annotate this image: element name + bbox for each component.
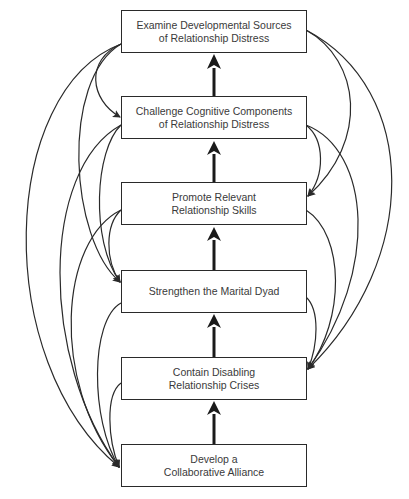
arrow-n5-n6 xyxy=(110,383,121,467)
arrow-n1-n5 xyxy=(306,30,392,369)
node-text: Develop a xyxy=(190,453,237,466)
node-examine-developmental-sources: Examine Developmental Sources of Relatio… xyxy=(121,10,307,53)
node-text: Contain Disabling xyxy=(173,366,255,379)
node-text: Challenge Cognitive Components xyxy=(136,105,292,118)
node-text: Collaborative Alliance xyxy=(164,466,264,479)
node-develop-collaborative-alliance: Develop a Collaborative Alliance xyxy=(121,444,307,487)
arrow-n3-n4 xyxy=(109,210,121,282)
left-arrows xyxy=(26,44,121,467)
right-arrows xyxy=(306,30,392,369)
node-contain-relationship-crises: Contain Disabling Relationship Crises xyxy=(121,357,307,400)
node-promote-relationship-skills: Promote Relevant Relationship Skills xyxy=(121,182,307,225)
node-text: Relationship Skills xyxy=(171,204,256,217)
diagram-edges xyxy=(0,0,409,499)
arrow-n3-n5 xyxy=(306,210,336,369)
node-text: of Relationship Distress xyxy=(159,118,269,131)
arrow-n1-n3 xyxy=(306,30,351,196)
arrow-n2-n5 xyxy=(306,125,358,369)
node-text: Relationship Crises xyxy=(169,379,259,392)
arrow-n4-n5 xyxy=(306,297,316,369)
arrow-n4-n6 xyxy=(97,303,121,467)
node-strengthen-marital-dyad: Strengthen the Marital Dyad xyxy=(121,270,307,313)
node-text: Strengthen the Marital Dyad xyxy=(149,285,280,298)
node-text: Examine Developmental Sources xyxy=(136,19,291,32)
arrow-n2-n6 xyxy=(60,125,121,467)
node-text: of Relationship Distress xyxy=(159,32,269,45)
node-text: Promote Relevant xyxy=(172,191,256,204)
node-challenge-cognitive-components: Challenge Cognitive Components of Relati… xyxy=(121,96,307,139)
